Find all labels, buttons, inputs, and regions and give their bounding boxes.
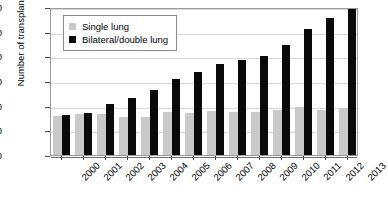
x-axis-tick-label: 2003: [145, 160, 168, 183]
y-axis-tick-label: 0: [0, 151, 2, 161]
bar-group: [337, 9, 359, 155]
x-axis-tick-mark: [127, 156, 128, 160]
x-axis-tick-label: 2013: [365, 160, 388, 183]
x-axis-tick-label: 2010: [299, 160, 322, 183]
x-axis-tick-mark: [325, 156, 326, 160]
bar-single-lung: [97, 114, 105, 155]
bar-single-lung: [163, 112, 171, 155]
bar-single-lung: [317, 110, 325, 155]
x-axis-tick-mark: [83, 156, 84, 160]
legend-item-single-lung: Single lung: [69, 20, 168, 33]
x-axis-tick-label: 2009: [277, 160, 300, 183]
bar-single-lung: [53, 116, 61, 155]
bar-group: [249, 9, 271, 155]
x-axis-tick-mark: [61, 156, 62, 160]
bar-single-lung: [185, 113, 193, 155]
bar-group: [205, 9, 227, 155]
x-axis-tick-mark: [303, 156, 304, 160]
x-axis-tick-mark: [193, 156, 194, 160]
y-axis-tick-label: 3000: [0, 3, 2, 13]
bar-single-lung: [141, 117, 149, 155]
bar-single-lung: [273, 110, 281, 155]
bar-bilateral-lung: [150, 90, 158, 155]
bar-single-lung: [229, 112, 237, 155]
y-axis-tick-label: 2000: [0, 53, 2, 63]
bar-single-lung: [75, 114, 83, 155]
x-axis-tick-label: 2008: [255, 160, 278, 183]
bar-bilateral-lung: [84, 113, 92, 155]
y-axis-title: Number of transplants: [15, 0, 26, 115]
legend-label-bilateral-lung: Bilateral/double lung: [82, 34, 168, 45]
gridline: [51, 157, 357, 158]
x-axis-tick-label: 2007: [233, 160, 256, 183]
bar-bilateral-lung: [260, 56, 268, 155]
x-axis-tick-label: 2005: [189, 160, 212, 183]
legend-swatch-single-lung-icon: [69, 23, 76, 30]
bar-bilateral-lung: [106, 104, 114, 155]
x-axis-tick-label: 2012: [343, 160, 366, 183]
x-axis-tick-label: 2002: [123, 160, 146, 183]
x-axis-tick-mark: [105, 156, 106, 160]
bar-bilateral-lung: [172, 79, 180, 155]
bar-bilateral-lung: [348, 9, 356, 155]
bar-bilateral-lung: [326, 18, 334, 155]
plot-area: Single lung Bilateral/double lung: [50, 8, 358, 156]
bar-group: [271, 9, 293, 155]
bar-bilateral-lung: [304, 29, 312, 155]
bar-bilateral-lung: [238, 60, 246, 155]
chart-legend: Single lung Bilateral/double lung: [63, 15, 177, 51]
bar-bilateral-lung: [62, 115, 70, 155]
x-axis-tick-mark: [237, 156, 238, 160]
x-axis-tick-label: 2000: [79, 160, 102, 183]
x-axis-tick-label: 2001: [101, 160, 124, 183]
x-axis-tick-label: 2006: [211, 160, 234, 183]
legend-item-bilateral-lung: Bilateral/double lung: [69, 33, 168, 46]
y-axis-tick-label: 1000: [0, 102, 2, 112]
x-axis-tick-mark: [259, 156, 260, 160]
bar-group: [183, 9, 205, 155]
bar-single-lung: [339, 108, 347, 155]
bar-bilateral-lung: [216, 64, 224, 155]
x-axis-tick-mark: [281, 156, 282, 160]
bar-single-lung: [207, 111, 215, 155]
x-axis-tick-label: 2011: [321, 160, 343, 182]
y-axis-tick-label: 500: [0, 127, 2, 137]
bar-group: [315, 9, 337, 155]
legend-swatch-bilateral-lung-icon: [69, 36, 76, 43]
x-axis-tick-mark: [171, 156, 172, 160]
bar-single-lung: [251, 112, 259, 155]
bar-bilateral-lung: [194, 72, 202, 155]
bar-single-lung: [119, 117, 127, 155]
x-axis-tick-mark: [347, 156, 348, 160]
y-axis-tick-label: 2500: [0, 28, 2, 38]
bar-group: [227, 9, 249, 155]
x-axis-tick-mark: [149, 156, 150, 160]
bar-bilateral-lung: [282, 45, 290, 155]
y-axis-tick-label: 1500: [0, 77, 2, 87]
x-axis-tick-mark: [215, 156, 216, 160]
bar-group: [293, 9, 315, 155]
y-axis-tick-mark: [45, 156, 50, 157]
bar-bilateral-lung: [128, 98, 136, 155]
bar-single-lung: [295, 107, 303, 155]
legend-label-single-lung: Single lung: [82, 21, 129, 32]
x-axis-tick-label: 2004: [167, 160, 190, 183]
